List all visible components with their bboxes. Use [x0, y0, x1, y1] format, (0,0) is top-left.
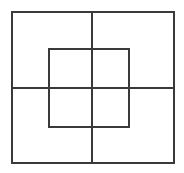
- figure-canvas: [0, 0, 184, 173]
- nested-squares-diagram: [0, 0, 184, 173]
